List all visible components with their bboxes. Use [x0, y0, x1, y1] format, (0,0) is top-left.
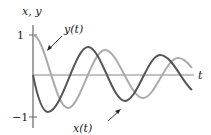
tick-label-neg1: −1 — [12, 111, 28, 124]
tick-label-1: 1 — [17, 29, 24, 42]
y-axis-label: x, y — [22, 5, 42, 18]
y-series-annotation: y(t) — [63, 23, 83, 36]
y-arrowhead-icon — [47, 45, 52, 51]
x-series-curve — [33, 47, 192, 112]
t-axis-label: t — [198, 69, 203, 82]
chart: x, y t 1 −1 y(t) x(t) — [0, 0, 211, 135]
y-series-curve — [33, 35, 192, 108]
x-series-annotation: x(t) — [73, 122, 92, 135]
